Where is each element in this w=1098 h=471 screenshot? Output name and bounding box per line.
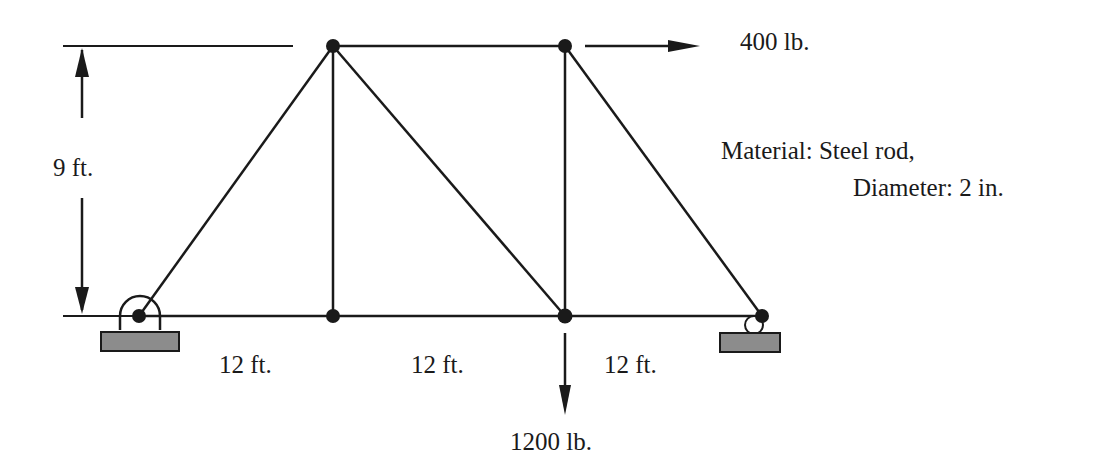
height-label: 9 ft. [53,154,93,181]
diameter-label: Diameter: 2 in. [853,174,1004,201]
pin-support [101,296,179,351]
joint-E [326,39,340,53]
roller-support [720,316,780,352]
member-FD [565,46,762,316]
joint-C [558,309,573,324]
truss-diagram: 9 ft. 400 lb. 1200 lb. 12 [0,0,1098,471]
span-label-2: 12 ft. [411,351,464,378]
member-EC [333,46,565,316]
horizontal-load-arrow [585,40,700,52]
joint-A [132,309,146,323]
vertical-load-arrow [559,333,571,415]
joint-D [755,309,769,323]
material-label: Material: Steel rod, [721,137,915,164]
member-AE [139,46,333,316]
truss-members [139,46,762,316]
span-label-3: 12 ft. [604,351,657,378]
span-label-1: 12 ft. [219,351,272,378]
vertical-load-label: 1200 lb. [510,428,592,455]
horizontal-load-label: 400 lb. [740,28,809,55]
height-dimension-arrow [75,48,89,314]
joint-B [326,309,340,323]
joint-F [558,39,572,53]
